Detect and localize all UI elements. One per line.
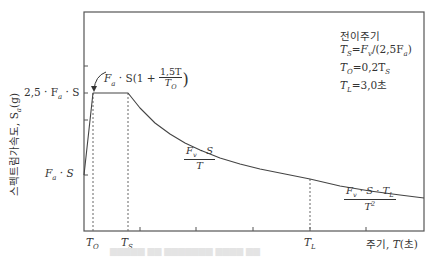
legend-tl: TL=3,0초 [340, 79, 412, 97]
displacement-branch-formula: Fv · S · TL T2 [344, 185, 396, 212]
x-axis-title: 주기, T(초) [366, 236, 418, 251]
legend-t0: TO=0,2TS [340, 61, 412, 79]
velocity-branch-formula: Fv · S T [184, 145, 215, 171]
y-axis-title: 스펙트럼가속도, Sa(g) [6, 93, 23, 196]
figure-caption: ▆▆▆▆▆ ▆▆ ▆▆▆▆▆▆▆ ▆▆▆▆ ▆▆ [110, 246, 260, 256]
legend-ts: TS=Fv/(2,5Fa) [340, 43, 412, 61]
ascending-branch-formula: Fa · S(1 + 1,5TTO) [104, 67, 189, 92]
transition-period-legend: 전이주기 TS=Fv/(2,5Fa) TO=0,2TS TL=3,0초 [340, 30, 412, 97]
y-tick-label-fas: Fa · S [45, 167, 74, 182]
x-tick-label-tl: TL [304, 236, 316, 251]
y-tick-label-plateau: 2,5 · Fa · S [24, 86, 79, 101]
x-tick-label-t0: TO [86, 236, 99, 251]
spectrum-curve [84, 93, 424, 198]
legend-title: 전이주기 [340, 30, 412, 43]
